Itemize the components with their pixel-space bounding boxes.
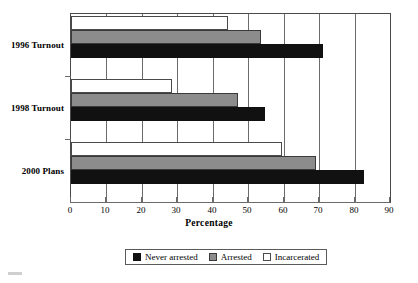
bar-row-never-arrested [71, 44, 323, 58]
x-tick-label-0: 0 [59, 205, 81, 215]
bar-group-2000-plans [71, 140, 390, 202]
legend-swatch-icon [263, 253, 271, 261]
x-tick-label-40: 40 [201, 205, 223, 215]
plot-area [70, 13, 391, 203]
x-tick-20 [141, 197, 142, 203]
x-tick-label-70: 70 [307, 205, 329, 215]
bar-1998-never-arrested [71, 107, 265, 121]
caption-stub [8, 272, 22, 275]
category-label-1998-turnout: 1998 Turnout [11, 103, 64, 113]
bar-1998-arrested [71, 93, 238, 107]
x-tick-label-20: 20 [130, 205, 152, 215]
bar-1996-arrested [71, 30, 261, 44]
bar-row-arrested [71, 156, 316, 170]
bar-row-incarcerated [71, 142, 282, 156]
bar-row-never-arrested [71, 107, 265, 121]
x-axis-line [70, 202, 390, 203]
y-tick-0 [65, 76, 71, 77]
x-axis-title: Percentage [0, 218, 418, 228]
legend-label-arrested: Arrested [221, 252, 252, 262]
x-tick-90 [389, 197, 390, 203]
bar-2000-incarcerated [71, 142, 282, 156]
x-tick-0 [70, 197, 71, 203]
legend-item-never-arrested: Never arrested [133, 252, 198, 262]
bar-1998-incarcerated [71, 79, 172, 93]
y-tick-1 [65, 139, 71, 140]
x-tick-label-90: 90 [378, 205, 400, 215]
x-tick-60 [283, 197, 284, 203]
legend-label-never-arrested: Never arrested [145, 252, 198, 262]
x-tick-10 [105, 197, 106, 203]
bar-row-incarcerated [71, 16, 228, 30]
x-tick-label-80: 80 [343, 205, 365, 215]
bar-row-arrested [71, 93, 238, 107]
x-tick-label-60: 60 [272, 205, 294, 215]
legend-swatch-icon [133, 253, 141, 261]
x-tick-70 [318, 197, 319, 203]
legend-item-arrested: Arrested [209, 252, 252, 262]
x-tick-30 [176, 197, 177, 203]
x-tick-label-10: 10 [94, 205, 116, 215]
bar-group-1998-turnout [71, 77, 390, 139]
x-tick-80 [354, 197, 355, 203]
legend-item-incarcerated: Incarcerated [263, 252, 319, 262]
category-label-1996-turnout: 1996 Turnout [11, 40, 64, 50]
legend-swatch-icon [209, 253, 217, 261]
bar-row-arrested [71, 30, 261, 44]
bar-row-incarcerated [71, 79, 172, 93]
x-tick-50 [247, 197, 248, 203]
bar-row-never-arrested [71, 170, 364, 184]
bar-group-1996-turnout [71, 14, 390, 76]
x-tick-label-50: 50 [236, 205, 258, 215]
chart-legend: Never arrested Arrested Incarcerated [125, 249, 327, 265]
bar-1996-never-arrested [71, 44, 323, 58]
category-label-2000-plans: 2000 Plans [22, 166, 64, 176]
legend-label-incarcerated: Incarcerated [275, 252, 319, 262]
bar-1996-incarcerated [71, 16, 228, 30]
x-tick-40 [212, 197, 213, 203]
bar-2000-arrested [71, 156, 316, 170]
chart-figure: 1996 Turnout 1998 Turnout 2000 Plans 0 1… [0, 0, 418, 283]
x-tick-label-30: 30 [165, 205, 187, 215]
bar-2000-never-arrested [71, 170, 364, 184]
